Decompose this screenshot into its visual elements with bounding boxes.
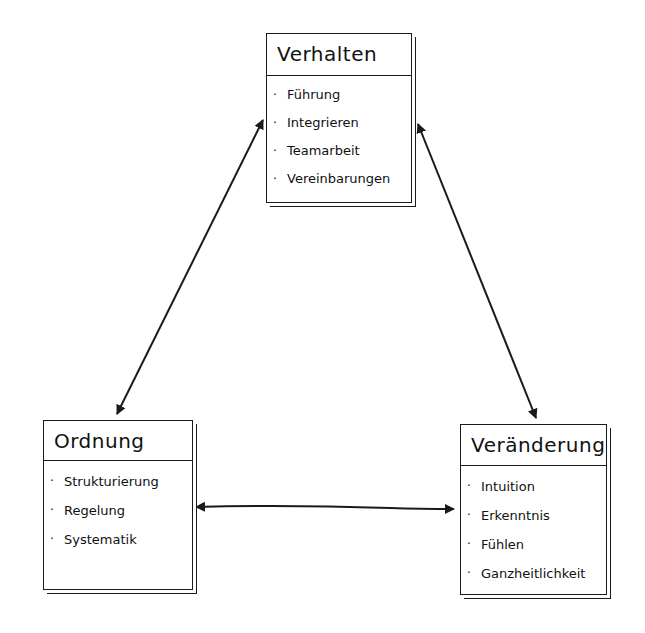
- item-label: Ganzheitlichkeit: [481, 566, 585, 581]
- node-title: Ordnung: [44, 421, 192, 461]
- bullet-icon: ·: [273, 138, 277, 164]
- bullet-icon: ·: [467, 530, 471, 559]
- item-label: Integrieren: [287, 115, 359, 130]
- node-verhalten: Verhalten ·Führung ·Integrieren ·Teamarb…: [266, 33, 412, 203]
- item-label: Erkenntnis: [481, 508, 550, 523]
- bullet-icon: ·: [467, 501, 471, 530]
- bullet-icon: ·: [273, 110, 277, 136]
- item-label: Fühlen: [481, 537, 524, 552]
- list-item: ·Ganzheitlichkeit: [467, 559, 606, 588]
- list-item: ·Führung: [273, 82, 411, 110]
- item-label: Regelung: [64, 503, 125, 518]
- arrow-verhalten-ordnung: [117, 120, 263, 414]
- bullet-icon: ·: [467, 559, 471, 588]
- bullet-icon: ·: [467, 472, 471, 501]
- list-item: ·Vereinbarungen: [273, 166, 411, 194]
- list-item: ·Intuition: [467, 472, 606, 501]
- node-ordnung: Ordnung ·Strukturierung ·Regelung ·Syste…: [43, 420, 193, 590]
- item-label: Systematik: [64, 532, 137, 547]
- arrow-verhalten-veraenderung: [418, 124, 536, 418]
- item-label: Strukturierung: [64, 474, 159, 489]
- list-item: ·Integrieren: [273, 110, 411, 138]
- bullet-icon: ·: [273, 166, 277, 192]
- list-item: ·Strukturierung: [50, 467, 192, 496]
- list-item: ·Teamarbeit: [273, 138, 411, 166]
- node-veraenderung: Veränderung ·Intuition ·Erkenntnis ·Fühl…: [460, 424, 607, 595]
- item-label: Führung: [287, 87, 340, 102]
- node-item-list: ·Führung ·Integrieren ·Teamarbeit ·Verei…: [267, 76, 411, 194]
- item-label: Vereinbarungen: [287, 171, 390, 186]
- bullet-icon: ·: [50, 467, 54, 496]
- list-item: ·Erkenntnis: [467, 501, 606, 530]
- list-item: ·Regelung: [50, 496, 192, 525]
- bullet-icon: ·: [273, 82, 277, 108]
- item-label: Teamarbeit: [287, 143, 360, 158]
- node-item-list: ·Intuition ·Erkenntnis ·Fühlen ·Ganzheit…: [461, 466, 606, 588]
- node-title: Veränderung: [461, 425, 606, 466]
- bullet-icon: ·: [50, 496, 54, 525]
- item-label: Intuition: [481, 479, 535, 494]
- bullet-icon: ·: [50, 525, 54, 554]
- arrow-ordnung-veraenderung: [196, 506, 454, 509]
- list-item: ·Fühlen: [467, 530, 606, 559]
- node-item-list: ·Strukturierung ·Regelung ·Systematik: [44, 461, 192, 554]
- list-item: ·Systematik: [50, 525, 192, 554]
- node-title: Verhalten: [267, 34, 411, 76]
